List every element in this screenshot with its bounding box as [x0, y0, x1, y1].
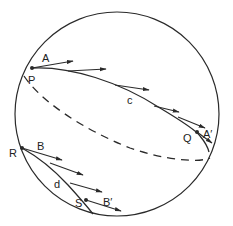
label-Q: Q — [183, 132, 192, 144]
label-d: d — [54, 178, 60, 190]
label-R: R — [9, 147, 17, 159]
label-A-prime: A′ — [203, 128, 212, 140]
transported-vector-arrow — [115, 85, 149, 90]
transported-vector-arrow — [68, 69, 106, 71]
label-A: A — [42, 52, 50, 64]
parallel-transport-diagram: A P c Q A′ R B d S B′ — [0, 0, 233, 226]
transported-vector-arrow — [154, 106, 179, 112]
point-P — [30, 66, 34, 70]
vectors-along-c — [32, 61, 212, 143]
vector-A-arrow — [32, 61, 73, 68]
point-R — [20, 146, 24, 150]
transported-vector-arrow — [70, 183, 102, 192]
label-S: S — [75, 197, 82, 209]
label-B-prime: B′ — [103, 196, 112, 208]
label-c: c — [127, 94, 133, 106]
point-S — [84, 198, 88, 202]
point-Q — [195, 130, 199, 134]
label-B: B — [37, 140, 44, 152]
transported-vector-arrow — [50, 163, 83, 175]
label-P: P — [28, 74, 35, 86]
sphere-outline — [15, 12, 219, 216]
